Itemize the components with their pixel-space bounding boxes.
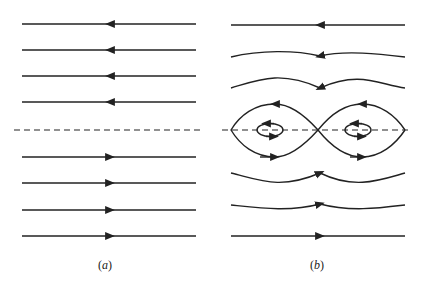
panel-b-streamlines: [222, 25, 412, 236]
streamline-diagram: [0, 0, 423, 285]
panel-a-streamlines: [14, 24, 202, 236]
panel-b-label: (b): [310, 258, 324, 273]
panel-a-label: (a): [98, 258, 112, 273]
